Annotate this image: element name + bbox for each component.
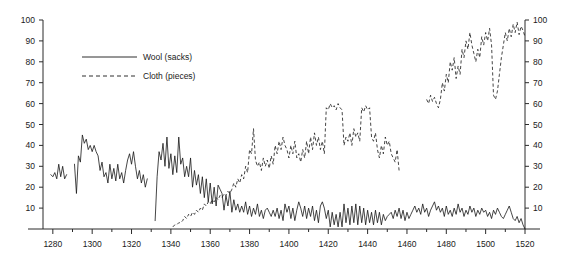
y-tick-label-right: 70 (533, 78, 543, 88)
x-tick-label: 1300 (83, 239, 102, 249)
axes-group (28, 20, 540, 229)
x-tick-label: 1400 (279, 239, 298, 249)
y-tick-label-left: 20 (26, 182, 36, 192)
y-tick-label-left: 60 (26, 99, 36, 109)
x-tick-label: 1360 (201, 239, 220, 249)
series-line-wool (51, 164, 67, 179)
x-tick-label: 1500 (476, 239, 495, 249)
data-series-group (51, 22, 525, 229)
x-tick-label: 1460 (397, 239, 416, 249)
y-tick-label-right: 50 (533, 120, 543, 130)
y-tick-label-left: 70 (26, 78, 36, 88)
series-line-wool (155, 137, 525, 229)
y-tick-label-right: 30 (533, 161, 543, 171)
y-tick-label-right: 60 (533, 99, 543, 109)
y-tick-label-left: 80 (26, 57, 36, 67)
y-tick-label-left: 90 (26, 36, 36, 46)
x-tick-label: 1440 (358, 239, 377, 249)
y-tick-label-right: 90 (533, 36, 543, 46)
y-tick-label-right: 20 (533, 182, 543, 192)
x-tick-label: 1340 (161, 239, 180, 249)
chart-legend: Wool (sacks) Cloth (pieces) (82, 52, 196, 81)
y-tick-label-left: 100 (21, 15, 35, 25)
y-tick-label-right: 10 (533, 203, 543, 213)
y-axis-left-ticks: 102030405060708090100 (21, 15, 43, 213)
x-tick-label: 1380 (240, 239, 259, 249)
x-axis-ticks: 1280130013201340136013801400142014401460… (43, 229, 534, 249)
x-tick-label: 1480 (437, 239, 456, 249)
y-tick-label-right: 40 (533, 140, 543, 150)
legend-label-wool: Wool (sacks) (143, 52, 192, 62)
series-line-wool (74, 135, 147, 194)
y-axis-right-ticks: 102030405060708090100 (525, 15, 547, 213)
legend-label-cloth: Cloth (pieces) (143, 71, 196, 81)
x-tick-label: 1420 (319, 239, 338, 249)
y-tick-label-left: 40 (26, 140, 36, 150)
y-tick-label-left: 50 (26, 120, 36, 130)
y-tick-label-right: 100 (533, 15, 547, 25)
y-tick-label-left: 30 (26, 161, 36, 171)
x-tick-label: 1280 (43, 239, 62, 249)
series-line-cloth (427, 22, 525, 108)
x-tick-label: 1520 (516, 239, 535, 249)
line-chart: 102030405060708090100 102030405060708090… (0, 0, 578, 259)
x-tick-label: 1320 (122, 239, 141, 249)
y-tick-label-left: 10 (26, 203, 36, 213)
y-tick-label-right: 80 (533, 57, 543, 67)
chart-container: 102030405060708090100 102030405060708090… (0, 0, 578, 259)
